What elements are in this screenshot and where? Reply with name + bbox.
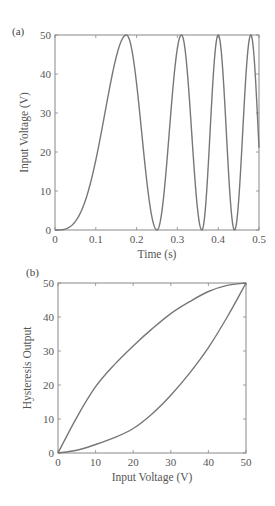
chart-a-y-axis-label: Input Voltage (V): [18, 92, 31, 173]
chart-a-ticks: 00.10.20.30.40.501020304050: [40, 29, 266, 245]
y-tick-label: 10: [43, 413, 55, 425]
chart-b-axes-frame: [58, 283, 246, 453]
y-tick-label: 0: [46, 224, 52, 236]
y-tick-label: 30: [40, 107, 52, 119]
x-tick-label: 0: [55, 456, 61, 468]
panel-label-b: (b): [26, 266, 39, 279]
chart-a-x-axis-label: Time (s): [138, 248, 177, 261]
x-tick-label: 0.3: [171, 233, 185, 245]
x-tick-label: 0.2: [130, 233, 144, 245]
y-tick-label: 50: [43, 277, 55, 289]
chart-a-input-voltage-line: [55, 35, 259, 230]
x-tick-label: 20: [128, 456, 140, 468]
x-tick-label: 30: [165, 456, 177, 468]
chart-b-upper-branch-line: [58, 283, 246, 453]
x-tick-label: 0.4: [211, 233, 225, 245]
x-tick-label: 50: [241, 456, 253, 468]
y-tick-label: 20: [40, 146, 52, 158]
x-tick-label: 0: [52, 233, 58, 245]
y-tick-label: 10: [40, 185, 52, 197]
y-tick-label: 30: [43, 345, 55, 357]
y-tick-label: 40: [43, 311, 55, 323]
panel-label-a: (a): [12, 25, 25, 38]
y-tick-label: 0: [49, 447, 55, 459]
chart-b-x-axis-label: Input Voltage (V): [112, 471, 193, 484]
x-tick-label: 40: [203, 456, 215, 468]
y-tick-label: 40: [40, 68, 52, 80]
y-tick-label: 50: [40, 29, 52, 41]
figure: (a) 00.10.20.30.40.501020304050 Time (s)…: [0, 0, 275, 506]
y-tick-label: 20: [43, 379, 55, 391]
chart-b-y-axis-label: Hysteresis Output: [21, 326, 34, 410]
chart-b-lower-branch-line: [58, 283, 246, 453]
x-tick-label: 0.1: [89, 233, 103, 245]
chart-b-ticks: 0102030405001020304050: [43, 277, 252, 468]
chart-a: (a) 00.10.20.30.40.501020304050 Time (s)…: [12, 25, 266, 261]
chart-b: (b) 0102030405001020304050 Input Voltage…: [21, 266, 252, 484]
x-tick-label: 0.5: [252, 233, 266, 245]
x-tick-label: 10: [90, 456, 102, 468]
